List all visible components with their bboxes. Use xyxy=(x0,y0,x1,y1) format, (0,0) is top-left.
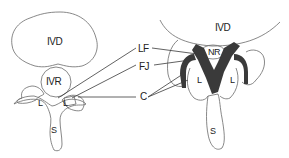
fj-label: FJ xyxy=(139,62,149,72)
left-lamina-left-label: L xyxy=(38,98,43,108)
fj-line-left xyxy=(72,65,136,98)
left-ivr-label: IVR xyxy=(46,77,61,87)
right-lamina-left-label: L xyxy=(197,75,202,85)
left-lamina-right-label: L xyxy=(63,98,68,108)
right-ivd-label: IVD xyxy=(215,23,230,33)
c-line-right-1 xyxy=(148,72,186,97)
right-left-capsule xyxy=(180,54,196,88)
c-label: C xyxy=(140,92,147,102)
right-spinous xyxy=(207,94,225,149)
spine-stenosis-diagram: IVD IVR L L S LF FJ C IVD NR L L S xyxy=(0,0,289,158)
left-ivd-label: IVD xyxy=(47,37,62,47)
right-nr-label: NR xyxy=(208,47,220,57)
lf-line-left xyxy=(58,48,136,98)
lf-label: LF xyxy=(138,44,149,54)
right-spinous-label: S xyxy=(210,126,216,136)
c-line-right-2 xyxy=(148,80,188,97)
diagram-canvas xyxy=(0,0,289,158)
left-spinous-label: S xyxy=(51,125,57,135)
right-lamina-right-label: L xyxy=(230,75,235,85)
